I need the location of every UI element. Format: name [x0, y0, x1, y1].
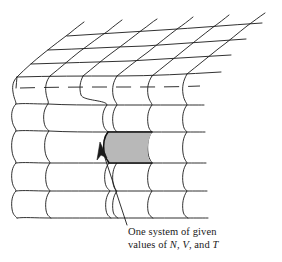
hidden-back-edge-group: [20, 86, 200, 88]
caption-variable-T: T: [213, 239, 219, 250]
top-face-cross-line-4: [67, 23, 262, 36]
caption-line-1: One system of given: [128, 226, 278, 239]
top-face-depth-line-3: [83, 19, 157, 76]
hidden-back-edge-dashed: [20, 86, 200, 88]
top-face-depth-line-5: [152, 15, 229, 76]
front-face-row-line-0: [16, 77, 17, 88]
top-face-depth-line-6: [187, 13, 265, 74]
top-face-group: [17, 13, 265, 77]
caption-line-2: values of N, V, and T: [128, 239, 278, 252]
caption-variable-N: N: [170, 239, 177, 250]
caption-line-2-prefix: values of: [128, 239, 170, 250]
caption-separator-2: , and: [189, 239, 213, 250]
ensemble-diagram-svg: [0, 0, 282, 262]
ensemble-figure: One system of given values of N, V, and …: [0, 0, 282, 262]
front-face-column-line-1: [44, 76, 51, 218]
highlighted-cell-fill: [104, 132, 152, 163]
caption-block: One system of given values of N, V, and …: [128, 226, 278, 251]
highlighted-system-cell: [104, 132, 152, 163]
top-face-depth-line-2: [50, 20, 122, 76]
front-face-row-line-1: [16, 104, 204, 105]
front-face-column-line-4: [148, 76, 153, 218]
front-face-left-edge: [12, 77, 17, 218]
top-face-cross-line-3: [48, 39, 246, 50]
front-face-column-line-5: [183, 74, 188, 218]
